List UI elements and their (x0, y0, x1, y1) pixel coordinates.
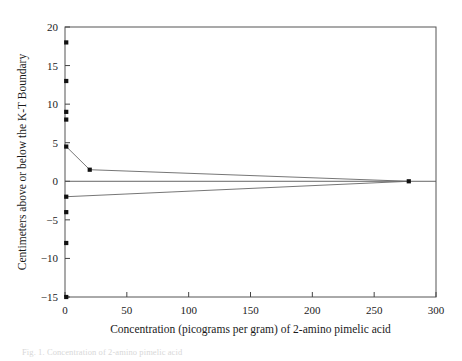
x-axis-tick-label: 300 (428, 304, 445, 316)
data-point-marker (64, 40, 68, 44)
x-axis-tick-label: 250 (366, 304, 383, 316)
series-line-upper-envelope (66, 147, 409, 182)
x-axis-tick-label: 50 (121, 304, 133, 316)
series-line-lower-envelope (66, 181, 409, 196)
data-point-marker (64, 110, 68, 114)
data-point-marker (64, 241, 68, 245)
x-axis-tick-label: 0 (62, 304, 68, 316)
y-axis-tick-label: 0 (53, 175, 59, 187)
data-point-marker (407, 179, 411, 183)
data-point-marker (64, 210, 68, 214)
x-axis-tick-label: 200 (304, 304, 321, 316)
plot-frame (65, 27, 436, 297)
data-point-marker (88, 168, 92, 172)
y-axis-tick-label: 20 (47, 21, 59, 33)
y-axis-tick-label: 15 (47, 60, 59, 72)
y-axis-tick-label: 10 (47, 98, 59, 110)
x-axis-title: Concentration (picograms per gram) of 2-… (110, 323, 391, 336)
data-point-marker (64, 144, 68, 148)
y-axis-tick-label: −10 (41, 252, 59, 264)
figure-caption: Fig. 1. Concentration of 2-amino pimelic… (22, 347, 182, 357)
data-point-marker (64, 295, 68, 299)
y-axis-title: Centimeters above or below the K-T Bound… (16, 54, 29, 271)
data-point-marker (64, 79, 68, 83)
y-axis-tick-label: −15 (41, 291, 59, 303)
y-axis-tick-label: 5 (53, 137, 59, 149)
figure-container: −15−10−505101520050100150200250300Concen… (0, 0, 462, 361)
x-axis-tick-label: 150 (242, 304, 259, 316)
data-point-marker (64, 117, 68, 121)
scatter-plot: −15−10−505101520050100150200250300Concen… (0, 0, 462, 361)
y-axis-tick-label: −5 (46, 214, 58, 226)
x-axis-tick-label: 100 (180, 304, 197, 316)
data-point-marker (64, 195, 68, 199)
